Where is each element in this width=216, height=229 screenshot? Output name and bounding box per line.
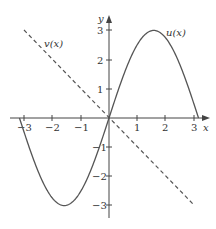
x-axis-arrow-icon — [202, 115, 210, 121]
x-tick-label: 3 — [191, 122, 197, 133]
u-curve-label: u(x) — [166, 27, 186, 38]
y-tick-label: −2 — [92, 171, 107, 182]
y-axis-arrow-icon — [106, 15, 112, 23]
x-tick-label: 1 — [134, 122, 140, 133]
plot-area: x y −3 −2 −1 1 2 3 3 2 1 −1 −2 −3 u(x) v… — [0, 0, 216, 229]
x-axis-label: x — [203, 122, 209, 133]
y-tick-label: 3 — [97, 25, 103, 36]
y-axis-label: y — [97, 13, 104, 24]
v-curve-label: v(x) — [44, 38, 63, 49]
y-tick-label: 1 — [97, 84, 103, 95]
x-tick-label: −1 — [74, 122, 89, 133]
x-tick-label: 2 — [162, 122, 168, 133]
y-tick-label: −3 — [92, 200, 107, 211]
y-tick-label: 2 — [97, 55, 103, 66]
x-tick-label: −2 — [45, 122, 60, 133]
